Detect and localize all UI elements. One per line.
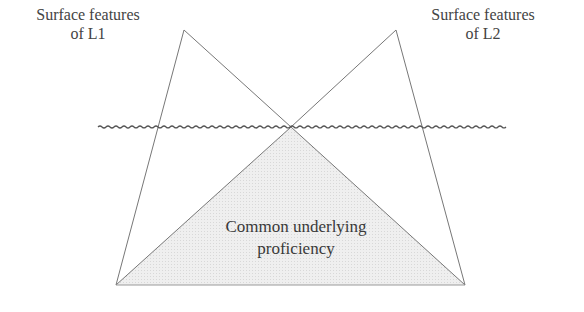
l1-label-line1: Surface features	[18, 5, 158, 24]
l2-label-line1: Surface features	[413, 5, 553, 24]
waterline	[98, 126, 506, 128]
l2-surface-features-label: Surface features of L2	[413, 5, 553, 43]
cup-label-line1: Common underlying	[196, 216, 396, 238]
l1-surface-features-label: Surface features of L1	[18, 5, 158, 43]
common-underlying-proficiency-label: Common underlying proficiency	[196, 216, 396, 260]
l2-label-line2: of L2	[413, 24, 553, 43]
diagram-canvas	[0, 0, 584, 312]
common-underlying-proficiency-region	[116, 127, 465, 285]
cup-label-line2: proficiency	[196, 238, 396, 260]
l1-label-line2: of L1	[18, 24, 158, 43]
